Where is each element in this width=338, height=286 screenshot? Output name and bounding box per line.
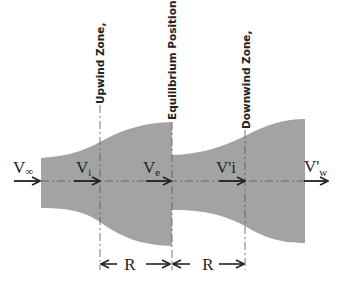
wake-velocity-label: V'w [304, 157, 327, 178]
downwind-radius-label: R [202, 255, 214, 274]
equilibrium-position-label: Equilibrium Position, [166, 0, 178, 120]
downwind-zone-label: Downwind Zone, [240, 31, 252, 129]
freestream-velocity-label: V∞ [13, 158, 33, 177]
upwind-zone-label: Upwind Zone, [94, 23, 106, 104]
upwind-stream-tube [41, 122, 172, 246]
diagram-canvas: Upwind Zone, Equilibrium Position, Downw… [0, 0, 338, 286]
downwind-induced-velocity-label: V'i [216, 158, 236, 177]
upwind-radius-label: R [124, 255, 136, 274]
